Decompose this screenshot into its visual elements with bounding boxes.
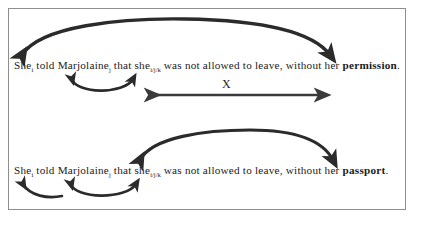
token-predicate-2: was not allowed to leave, without her: [161, 164, 343, 176]
token-period-1: .: [397, 59, 400, 71]
index-subscript-j-2: j: [109, 171, 111, 178]
index-subscript-ijk-1: i/j/k: [150, 66, 161, 73]
index-subscript-ijk-2: i/j/k: [150, 171, 161, 178]
linguistics-binding-figure: Shei told Marjolainej that shei/j/k was …: [0, 0, 422, 225]
example-sentence-1: Shei told Marjolainej that shei/j/k was …: [14, 59, 400, 73]
token-permission: permission: [343, 59, 397, 71]
token-that-she-1: that she: [111, 59, 150, 71]
token-that-she-2: that she: [111, 164, 150, 176]
index-subscript-j-1: j: [109, 66, 111, 73]
token-passport: passport: [343, 164, 386, 176]
token-she-2: She: [14, 164, 31, 176]
token-told-marjolaine-2: told Marjolaine: [33, 164, 109, 176]
measure-arrow-label: X: [222, 77, 231, 92]
token-she-1: She: [14, 59, 31, 71]
example-sentence-2: Shei told Marjolainej that shei/j/k was …: [14, 164, 388, 178]
token-period-2: .: [385, 164, 388, 176]
figure-frame: [8, 8, 406, 210]
token-predicate-1: was not allowed to leave, without her: [161, 59, 343, 71]
token-told-marjolaine-1: told Marjolaine: [33, 59, 109, 71]
